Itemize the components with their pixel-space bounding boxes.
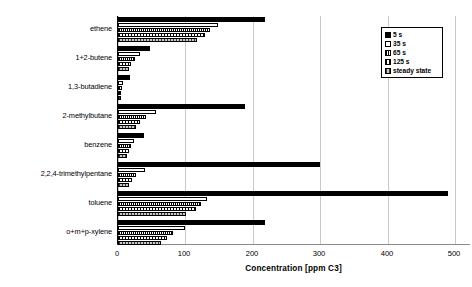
legend-swatch-125s xyxy=(385,59,391,65)
legend-label-125s: 125 s xyxy=(393,57,410,66)
legend-item-steady-state: steady state xyxy=(385,66,439,75)
legend-swatch-5s xyxy=(385,32,391,38)
legend-item-65s: 65 s xyxy=(385,48,439,57)
legend-swatch-35s xyxy=(385,41,391,47)
ytick-label-benzene: benzene xyxy=(0,140,112,149)
legend-label-65s: 65 s xyxy=(393,48,406,57)
legend-label-steady-state: steady state xyxy=(393,66,431,75)
ytick-label-1-3-butadiene: 1,3-butadiene xyxy=(0,82,112,91)
ytick-label-2-methylbutane: 2-methylbutane xyxy=(0,111,112,120)
xaxis-title: Concentration [ppm C3] xyxy=(117,264,470,273)
ytick-label-ethene: ethene xyxy=(0,24,112,33)
legend-item-125s: 125 s xyxy=(385,57,439,66)
chart-root: ethene 1+2-butene 1,3-butadiene 2-methyl… xyxy=(0,0,472,287)
legend-item-35s: 35 s xyxy=(385,39,439,48)
legend-swatch-65s xyxy=(385,50,391,56)
legend-label-5s: 5 s xyxy=(393,30,402,39)
ytick-label-toluene: toluene xyxy=(0,198,112,207)
legend-swatch-steady-state xyxy=(385,68,391,74)
legend: 5 s 35 s 65 s 125 s steady state xyxy=(381,27,443,78)
ytick-label-2-2-4-trimethylpentane: 2,2,4-trimethylpentane xyxy=(0,169,112,178)
legend-label-35s: 35 s xyxy=(393,39,406,48)
ytick-label-1-2-butene: 1+2-butene xyxy=(0,53,112,62)
legend-item-5s: 5 s xyxy=(385,30,439,39)
ytick-label-o-m-p-xylene: o+m+p-xylene xyxy=(0,227,112,236)
